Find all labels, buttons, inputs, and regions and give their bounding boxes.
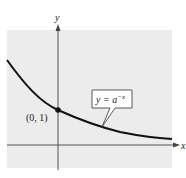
x-axis-label: x: [180, 140, 186, 151]
chart: y x (0, 1) y = a−x: [0, 0, 186, 178]
plot-background: [7, 30, 172, 168]
point-0-1: [55, 107, 61, 113]
point-label: (0, 1): [26, 112, 48, 124]
x-axis-arrow-icon: [173, 143, 180, 148]
y-axis-arrow-icon: [56, 24, 61, 31]
y-axis-label: y: [54, 12, 60, 23]
